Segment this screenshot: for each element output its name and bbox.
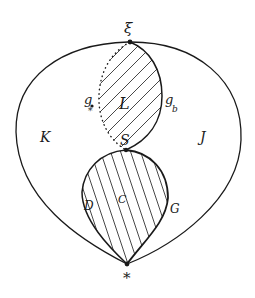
outer-boundary-curve [16, 42, 241, 264]
label-J: J [197, 129, 207, 145]
label-star: * [123, 269, 131, 287]
label-g-star: g [84, 92, 92, 107]
label-xi: ξ [124, 19, 133, 37]
label-g-b-subscript: b [172, 104, 178, 114]
label-K: K [39, 129, 52, 145]
label-L: L [118, 94, 130, 113]
label-D: D [83, 199, 94, 213]
topological-diagram: ξ g * L g b K J S D C G * [0, 0, 255, 298]
label-C: C [118, 193, 127, 206]
bottom-point [125, 262, 130, 267]
top-point [128, 40, 133, 45]
label-g-star-mark: * [88, 106, 93, 116]
label-S: S [120, 132, 130, 148]
middle-point [124, 148, 128, 152]
label-G: G [170, 202, 180, 216]
